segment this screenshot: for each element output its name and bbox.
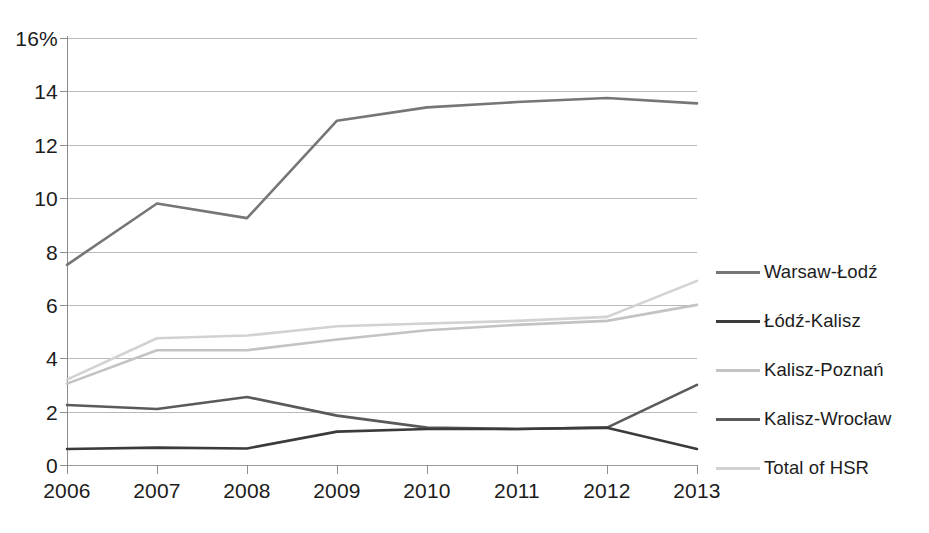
- legend-swatch-icon: [716, 467, 760, 470]
- legend-item[interactable]: Kalisz-Poznań: [716, 346, 929, 395]
- series-line: [67, 385, 697, 429]
- legend-label: Kalisz-Wrocław: [764, 410, 892, 429]
- legend-swatch-icon: [716, 369, 760, 372]
- legend-swatch-icon: [716, 320, 760, 323]
- line-chart: 16%14121086420 2006200720082009201020112…: [0, 0, 929, 533]
- legend-item[interactable]: Total of HSR: [716, 444, 929, 493]
- legend-item[interactable]: Łódź-Kalisz: [716, 297, 929, 346]
- legend-item[interactable]: Kalisz-Wrocław: [716, 395, 929, 444]
- chart-legend: Warsaw-ŁodźŁódź-KaliszKalisz-PoznańKalis…: [716, 248, 929, 493]
- legend-item[interactable]: Warsaw-Łodź: [716, 248, 929, 297]
- legend-label: Total of HSR: [764, 459, 869, 478]
- legend-label: Warsaw-Łodź: [764, 263, 878, 282]
- series-line: [67, 428, 697, 449]
- y-tick-mark: [60, 358, 68, 359]
- series-line: [67, 281, 697, 380]
- y-tick-mark: [60, 412, 68, 413]
- y-tick-mark: [60, 198, 68, 199]
- legend-swatch-icon: [716, 418, 760, 421]
- y-tick-mark: [60, 38, 68, 39]
- y-tick-mark: [60, 305, 68, 306]
- y-tick-mark: [60, 252, 68, 253]
- y-tick-mark: [60, 465, 68, 466]
- legend-label: Łódź-Kalisz: [764, 312, 861, 331]
- series-line: [67, 98, 697, 265]
- y-tick-mark: [60, 145, 68, 146]
- y-tick-mark: [60, 91, 68, 92]
- legend-swatch-icon: [716, 271, 760, 274]
- legend-label: Kalisz-Poznań: [764, 361, 884, 380]
